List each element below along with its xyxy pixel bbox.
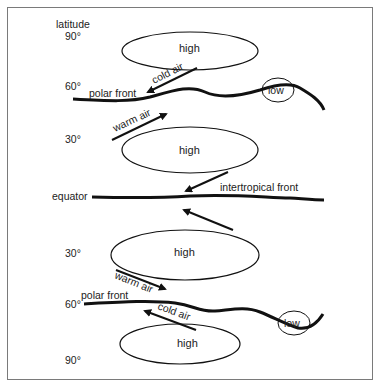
trade-wind-arrow-south <box>184 210 233 230</box>
intertropical-front <box>92 195 324 200</box>
polar-front-label-south: polar front <box>81 289 128 301</box>
high-pressure-north-subtropic: high <box>122 127 258 173</box>
svg-text:high: high <box>179 42 200 54</box>
svg-text:low: low <box>284 317 300 329</box>
latitude-label-s30: 30° <box>65 247 81 259</box>
polar-front-label-north: polar front <box>89 87 136 99</box>
latitude-label-n90: 90° <box>65 30 81 42</box>
latitude-axis-title: latitude <box>56 18 90 30</box>
intertropical-front-label: intertropical front <box>220 181 298 193</box>
svg-text:low: low <box>268 84 284 96</box>
equator-label: equator <box>52 190 88 202</box>
svg-text:high: high <box>179 144 200 156</box>
latitude-label-n60: 60° <box>65 80 81 92</box>
svg-text:high: high <box>174 246 195 258</box>
latitude-label-s90: 90° <box>65 354 81 366</box>
high-pressure-south-subtropic: high <box>111 230 259 280</box>
svg-text:high: high <box>177 337 198 349</box>
latitude-label-n30: 30° <box>65 133 81 145</box>
high-pressure-north-polar: high <box>122 32 258 70</box>
latitude-label-s60: 60° <box>65 298 81 310</box>
low-pressure-north: low <box>262 78 294 102</box>
global-circulation-diagram: latitude 90° 60° 30° equator 30° 60° 90°… <box>0 0 381 389</box>
high-pressure-south-polar: high <box>120 324 240 364</box>
